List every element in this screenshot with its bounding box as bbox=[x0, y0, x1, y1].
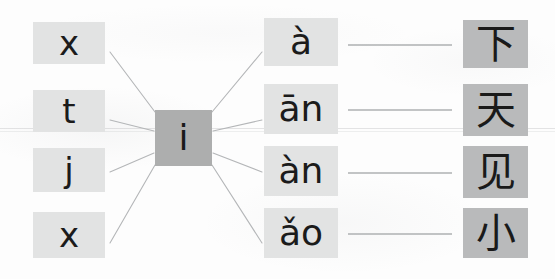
final-tile-1[interactable]: à bbox=[264, 18, 338, 66]
final-label-3: àn bbox=[279, 153, 324, 189]
link-center-to-final-2 bbox=[213, 120, 262, 131]
initial-tile-3[interactable]: j bbox=[33, 148, 105, 192]
initial-tile-4[interactable]: x bbox=[33, 212, 105, 258]
hanzi-label-1: 下 bbox=[476, 24, 516, 64]
link-center-to-initial-3 bbox=[110, 153, 154, 172]
initial-tile-2[interactable]: t bbox=[33, 90, 105, 132]
final-tile-4[interactable]: ǎo bbox=[264, 208, 338, 258]
link-center-to-final-4 bbox=[212, 165, 262, 243]
initial-label-1: x bbox=[59, 26, 79, 60]
link-center-to-initial-1 bbox=[110, 52, 155, 112]
hanzi-label-4: 小 bbox=[476, 213, 516, 253]
final-label-1: à bbox=[290, 24, 312, 60]
hanzi-tile-3[interactable]: 见 bbox=[463, 146, 528, 198]
center-vowel-tile[interactable]: i bbox=[155, 110, 212, 166]
final-label-4: ǎo bbox=[279, 215, 323, 251]
hanzi-label-2: 天 bbox=[476, 90, 516, 130]
hanzi-tile-1[interactable]: 下 bbox=[463, 20, 528, 68]
center-vowel-label: i bbox=[178, 120, 188, 156]
final-tile-3[interactable]: àn bbox=[264, 146, 338, 196]
initial-tile-1[interactable]: x bbox=[33, 22, 105, 64]
hanzi-tile-2[interactable]: 天 bbox=[463, 84, 528, 136]
worksheet-canvas: x t j x i à ān àn ǎo 下 天 见 小 bbox=[0, 0, 555, 279]
link-center-to-final-1 bbox=[212, 52, 262, 112]
link-center-to-initial-4 bbox=[110, 165, 155, 243]
hanzi-tile-4[interactable]: 小 bbox=[463, 208, 528, 258]
final-label-2: ān bbox=[279, 91, 324, 127]
hanzi-label-3: 见 bbox=[476, 152, 516, 192]
initial-label-4: x bbox=[59, 218, 79, 252]
final-tile-2[interactable]: ān bbox=[264, 84, 338, 134]
link-center-to-initial-2 bbox=[110, 120, 154, 131]
initial-label-3: j bbox=[64, 153, 73, 187]
initial-label-2: t bbox=[62, 94, 75, 128]
link-center-to-final-3 bbox=[213, 153, 262, 172]
